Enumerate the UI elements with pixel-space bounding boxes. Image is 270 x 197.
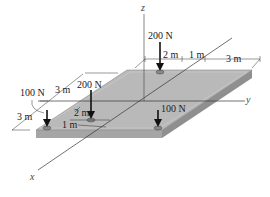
dim-top-2m: 2 m — [163, 50, 178, 60]
dim-inner-1m: 1 m — [62, 120, 77, 130]
force-label-left-200: 200 N — [77, 80, 102, 90]
force-label-right-100: 100 N — [161, 104, 186, 114]
z-axis-label: z — [141, 3, 145, 13]
plate-side-front — [36, 130, 162, 138]
force-label-left-100: 100 N — [20, 88, 45, 98]
x-axis-label: x — [30, 172, 34, 182]
dim-top-3m: 3 m — [226, 54, 241, 64]
dim-left-3m-lower: 3 m — [17, 112, 32, 122]
y-axis-label: y — [246, 95, 250, 105]
dim-inner-2m: 2 m — [74, 108, 89, 118]
force-label-back-200: 200 N — [148, 31, 173, 41]
diagram-figure: z y x 200 N 200 N 100 N 100 N 2 m 1 m 3 … — [0, 0, 270, 197]
dim-left-3m-upper: 3 m — [55, 85, 70, 95]
dim-top-1m: 1 m — [189, 50, 204, 60]
diagram-drawing — [0, 0, 270, 197]
